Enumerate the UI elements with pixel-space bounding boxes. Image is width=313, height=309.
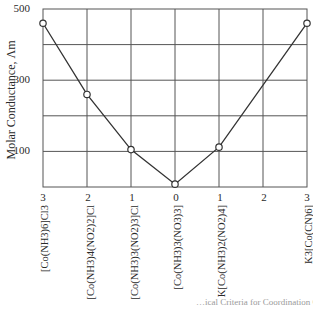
- y-tick-300: 300: [6, 73, 30, 85]
- x-category-text: [Co(NH3)3(NO2)3]Cl: [128, 205, 139, 300]
- x-category-label: [Co(NH3)3(NO3)3]: [169, 205, 183, 305]
- data-point-marker: [40, 20, 46, 26]
- x-category-text: [Co(NH3)3(NO3)3]: [172, 205, 183, 290]
- x-category-label: [Co(NH3)4(NO2)2]Cl: [81, 205, 95, 305]
- x-category-label: K3[Co(CN)6]: [300, 205, 313, 305]
- x-category-label: [Co(NH3)3(NO2)3]Cl: [125, 205, 139, 305]
- x-category-label: [Co(NH3)6]Cl3: [36, 205, 50, 305]
- data-point-marker: [304, 20, 310, 26]
- data-point-marker: [172, 181, 178, 187]
- x-tick-2-left: 2: [81, 191, 95, 203]
- y-tick-100: 100: [6, 144, 30, 156]
- x-category-label: K[Co(NH3)2(NO2)4]: [213, 205, 227, 305]
- figure-caption: …ical Criteria for Coordination Comp…: [196, 297, 313, 307]
- y-axis-title-text: Molar Conductance, Λm: [4, 40, 19, 159]
- x-category-text: K3[Co(CN)6]: [303, 205, 313, 264]
- x-category-text: K[Co(NH3)2(NO2)4]: [216, 205, 227, 297]
- x-tick-2-right: 2: [257, 191, 271, 203]
- x-tick-3-right: 3: [300, 191, 313, 203]
- x-tick-1-left: 1: [125, 191, 139, 203]
- x-tick-3-left: 3: [36, 191, 50, 203]
- y-tick-500: 500: [6, 2, 30, 14]
- x-tick-1-right: 1: [213, 191, 227, 203]
- x-tick-0: 0: [169, 191, 183, 203]
- grid-lines: [43, 9, 307, 187]
- data-point-marker: [84, 91, 90, 97]
- data-point-marker: [128, 146, 134, 152]
- x-category-text: [Co(NH3)6]Cl3: [39, 205, 50, 272]
- x-category-text: [Co(NH3)4(NO2)2]Cl: [84, 205, 95, 300]
- data-point-marker: [216, 144, 222, 150]
